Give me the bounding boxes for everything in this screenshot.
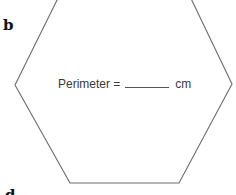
- perimeter-unit: cm: [175, 77, 191, 91]
- hexagon-outline: [15, 0, 232, 183]
- part-label-d: d: [5, 188, 16, 195]
- hexagon-figure: [0, 0, 236, 195]
- perimeter-answer-blank[interactable]: [125, 77, 169, 88]
- part-label-b: b: [3, 18, 14, 33]
- perimeter-label: Perimeter =: [58, 77, 120, 91]
- perimeter-prompt: Perimeter = cm: [58, 77, 191, 91]
- worksheet-page: b d Perimeter = cm: [0, 0, 236, 195]
